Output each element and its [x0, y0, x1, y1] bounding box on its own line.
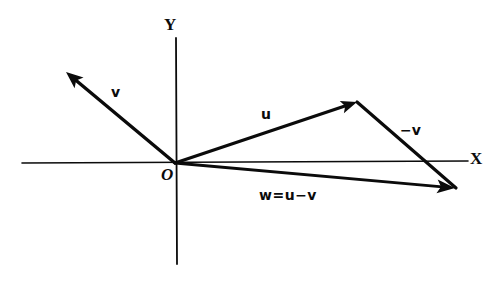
vector-shaft-minus-v — [357, 102, 456, 188]
vector-shaft-w — [175, 163, 445, 187]
vector-label-u: u — [261, 107, 271, 121]
origin-label: O — [161, 166, 173, 183]
vector-diagram-figure: Y X O v u −v w=u−v — [0, 0, 498, 283]
x-axis-line — [22, 161, 468, 163]
axes-group — [22, 38, 468, 264]
vectors-group — [66, 72, 456, 193]
vector-shaft-v — [73, 78, 175, 163]
vector-label-w-equation: w=u−v — [259, 188, 317, 202]
vector-label-minus-v: −v — [400, 123, 421, 137]
x-axis-label: X — [470, 150, 483, 167]
vector-diagram-canvas — [0, 0, 498, 283]
y-axis-line — [176, 38, 177, 264]
y-axis-label: Y — [164, 16, 177, 33]
vector-label-v: v — [111, 85, 120, 99]
